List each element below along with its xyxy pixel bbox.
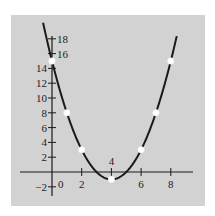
y-tick-label: 16 [57,48,69,60]
parabola-chart: 02468−224681012141618 [0,0,215,216]
data-point [108,176,114,182]
data-point [79,147,85,153]
x-tick-label: 4 [109,155,115,167]
y-tick-label: 10 [36,92,48,104]
y-tick-label: −2 [35,181,47,193]
y-tick-label: 14 [36,62,48,74]
x-tick-label: 6 [138,178,144,190]
y-tick-label: 18 [57,33,69,45]
x-tick-label: 8 [168,178,174,190]
y-tick-label: 8 [42,107,48,119]
x-tick-label: 2 [79,178,85,190]
x-tick-label: 0 [58,178,64,190]
data-point [168,58,174,64]
data-point [64,110,70,116]
data-point [153,110,159,116]
y-tick-label: 2 [42,151,48,163]
y-tick-label: 4 [42,136,48,148]
y-tick-label: 12 [36,77,47,89]
data-point [49,58,55,64]
y-tick-label: 6 [42,122,48,134]
data-point [138,147,144,153]
